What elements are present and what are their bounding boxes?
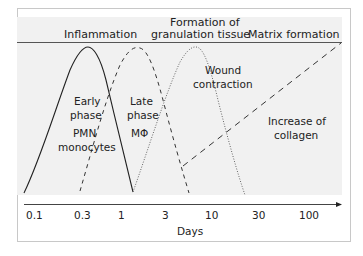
tick-3: 3: [162, 209, 169, 221]
late-phase-label-1: Late: [130, 95, 153, 108]
late-cells-label: MΦ: [131, 127, 148, 140]
tick-0.3: 0.3: [74, 209, 91, 221]
x-axis-label: Days: [177, 225, 203, 238]
wound-label-2: contraction: [193, 78, 253, 91]
tick-1: 1: [118, 209, 125, 221]
tick-10: 10: [205, 209, 218, 221]
phase-inflammation: Inflammation: [64, 28, 137, 41]
early-phase-label-2: phase: [70, 109, 102, 122]
phase-granulation-line2: granulation tissue: [151, 28, 250, 41]
early-cells-label-1: PMN: [73, 127, 96, 140]
early-phase-label-1: Early: [74, 95, 101, 108]
tick-100: 100: [299, 209, 319, 221]
phase-matrix: Matrix formation: [248, 28, 340, 41]
late-phase-label-2: phase: [127, 109, 159, 122]
collagen-label-2: collagen: [274, 129, 318, 142]
early-cells-label-2: monocytes: [58, 141, 116, 154]
collagen-label-1: Increase of: [268, 115, 326, 128]
x-axis-arrow-icon: [336, 202, 342, 207]
tick-30: 30: [252, 209, 265, 221]
wound-label-1: Wound: [205, 64, 241, 77]
tick-0.1: 0.1: [26, 209, 43, 221]
